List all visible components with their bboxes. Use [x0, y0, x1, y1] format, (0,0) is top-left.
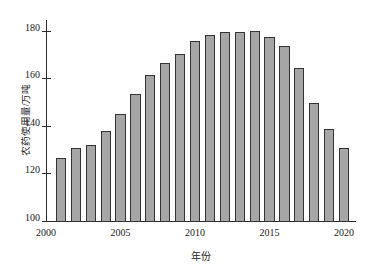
y-axis-line	[46, 20, 47, 222]
bar	[205, 35, 215, 222]
x-tick-label: 2015	[260, 227, 280, 238]
y-tick-mark-inner	[47, 173, 51, 174]
bar	[101, 131, 111, 222]
y-tick-label: 120	[25, 164, 40, 175]
bar	[71, 148, 81, 222]
bar	[145, 75, 155, 222]
bar	[160, 63, 170, 222]
x-tick-label: 2000	[36, 227, 56, 238]
bar	[220, 32, 230, 222]
y-tick-mark-inner	[47, 126, 51, 127]
x-axis-label: 年份	[46, 248, 356, 263]
bar	[324, 129, 334, 222]
bar	[190, 41, 200, 222]
y-tick-label: 140	[25, 116, 40, 127]
y-tick-mark-inner	[47, 78, 51, 79]
bar	[250, 31, 260, 222]
bar	[175, 54, 185, 222]
bar	[294, 68, 304, 222]
y-tick-label: 100	[25, 212, 40, 223]
x-tick-label: 2005	[111, 227, 131, 238]
bar	[86, 145, 96, 222]
bar	[264, 37, 274, 222]
x-tick-label: 2010	[185, 227, 205, 238]
bar	[279, 46, 289, 222]
x-tick-label: 2020	[334, 227, 354, 238]
bar-chart: 农药使用量/万吨 100120140160180 200020052010201…	[0, 0, 374, 273]
y-tick-mark-inner	[47, 31, 51, 32]
y-tick-label: 180	[25, 21, 40, 32]
bar	[56, 158, 66, 222]
bar	[309, 103, 319, 222]
bar	[339, 148, 349, 222]
y-tick-label: 160	[25, 69, 40, 80]
plot-area: 100120140160180 20002005201020152020	[46, 20, 356, 222]
bar	[115, 114, 125, 222]
y-tick-mark	[42, 221, 47, 222]
bar	[235, 32, 245, 222]
bar	[130, 94, 140, 222]
